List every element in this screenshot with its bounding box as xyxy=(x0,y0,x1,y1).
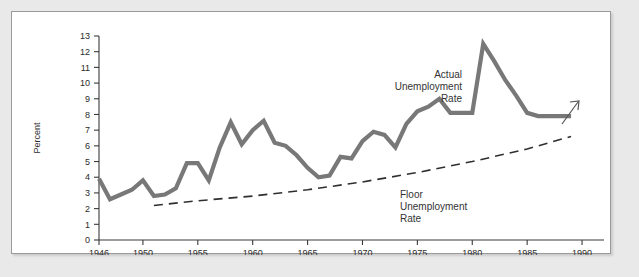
x-axis: 1946195019551960196519701975198019851990 xyxy=(89,240,604,255)
y-tick-label-11: 11 xyxy=(81,63,90,73)
data-series-group xyxy=(99,44,571,206)
x-axis-ticks xyxy=(99,240,582,245)
x-tick-label-1946: 1946 xyxy=(89,248,109,255)
series-floor-unemployment-rate xyxy=(154,136,571,205)
y-axis-ticks xyxy=(94,36,99,240)
x-axis-tick-labels: 1946195019551960196519701975198019851990 xyxy=(89,248,592,255)
y-axis-title: Percent xyxy=(32,122,42,154)
actual-label-line2: Unemployment xyxy=(395,81,462,92)
screenshot-page: 012345678910111213 Percent 1946195019551… xyxy=(0,0,639,277)
figure-frame: 012345678910111213 Percent 1946195019551… xyxy=(11,11,611,254)
y-tick-label-12: 12 xyxy=(80,47,90,57)
y-tick-label-9: 9 xyxy=(85,94,90,104)
y-tick-label-13: 13 xyxy=(80,31,90,41)
x-tick-label-1960: 1960 xyxy=(243,248,263,255)
actual-label-line1: Actual xyxy=(434,69,462,80)
y-tick-label-0: 0 xyxy=(85,235,90,245)
unemployment-rate-chart: 012345678910111213 Percent 1946195019551… xyxy=(12,12,612,255)
x-tick-label-1980: 1980 xyxy=(462,248,482,255)
x-tick-label-1955: 1955 xyxy=(188,248,208,255)
x-tick-label-1950: 1950 xyxy=(133,248,153,255)
x-tick-label-1990: 1990 xyxy=(572,248,592,255)
y-tick-label-3: 3 xyxy=(85,188,90,198)
y-tick-label-7: 7 xyxy=(85,125,90,135)
floor-label-line1: Floor xyxy=(400,189,423,200)
series-actual-unemployment-rate xyxy=(99,44,571,199)
floor-label-line2: Unemployment xyxy=(400,201,467,212)
y-axis: 012345678910111213 Percent xyxy=(32,31,99,245)
y-tick-label-4: 4 xyxy=(85,172,90,182)
y-tick-label-5: 5 xyxy=(85,157,90,167)
x-tick-label-1985: 1985 xyxy=(517,248,537,255)
x-tick-label-1975: 1975 xyxy=(407,248,427,255)
y-tick-label-1: 1 xyxy=(85,220,90,230)
y-tick-label-10: 10 xyxy=(80,78,90,88)
y-tick-label-6: 6 xyxy=(85,141,90,151)
actual-label-line3: Rate xyxy=(441,93,463,104)
annotation-floor: Floor Unemployment Rate xyxy=(400,189,467,224)
y-tick-label-2: 2 xyxy=(85,204,90,214)
y-tick-label-8: 8 xyxy=(85,110,90,120)
chart-plot-area: 012345678910111213 Percent 1946195019551… xyxy=(12,12,612,255)
annotation-actual: Actual Unemployment Rate xyxy=(395,69,463,104)
y-axis-tick-labels: 012345678910111213 xyxy=(80,31,90,245)
floor-label-line3: Rate xyxy=(400,213,422,224)
arrow-up-right-icon xyxy=(562,101,579,124)
x-tick-label-1970: 1970 xyxy=(352,248,372,255)
x-tick-label-1965: 1965 xyxy=(298,248,318,255)
